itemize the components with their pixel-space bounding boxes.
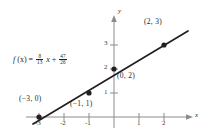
x-tick-label-2: 2 bbox=[162, 120, 166, 127]
equation-plus: + bbox=[52, 55, 57, 64]
x-tick-label--1: -1 bbox=[85, 120, 91, 127]
data-point-2-3 bbox=[161, 42, 166, 47]
equation-intercept-fraction: 47 26 bbox=[59, 54, 66, 66]
y-tick-label-1: 1 bbox=[104, 89, 108, 96]
label-point-n1-1: (−1, 1) bbox=[70, 100, 93, 108]
x-tick-label--3: -3 bbox=[35, 120, 41, 127]
label-point-0-2: (0, 2) bbox=[117, 72, 135, 80]
x-tick-label--2: -2 bbox=[60, 120, 66, 127]
equation-slope-denominator: 13 bbox=[36, 59, 43, 65]
equation-intercept-denominator: 26 bbox=[59, 59, 66, 65]
x-tick-label-1: 1 bbox=[137, 120, 141, 127]
x-axis-arrowhead bbox=[186, 114, 193, 120]
equation-equals: = bbox=[29, 55, 34, 64]
equation-variable-paren: (x) bbox=[17, 55, 26, 64]
label-point-n3-0: (−3, 0) bbox=[19, 95, 42, 103]
graph-canvas bbox=[0, 0, 204, 135]
equation-function-name: f bbox=[13, 55, 15, 64]
y-tick-label-2: 2 bbox=[104, 64, 108, 71]
function-equation: f(x) = 8 13 x + 47 26 bbox=[13, 54, 68, 66]
y-axis-label: y bbox=[118, 8, 121, 15]
data-point-0-2 bbox=[111, 66, 116, 71]
y-tick-label-3: 3 bbox=[104, 40, 108, 47]
y-axis-arrowhead bbox=[111, 15, 117, 22]
data-point--1-1 bbox=[86, 90, 91, 95]
x-axis-label: x bbox=[195, 112, 198, 119]
equation-slope-variable: x bbox=[46, 55, 50, 64]
graph-figure: y x -3 -2 -1 1 2 1 2 3 (2, 3) (0, 2) (−1… bbox=[0, 0, 204, 135]
equation-slope-fraction: 8 13 bbox=[36, 54, 43, 66]
label-point-2-3: (2, 3) bbox=[144, 18, 162, 26]
